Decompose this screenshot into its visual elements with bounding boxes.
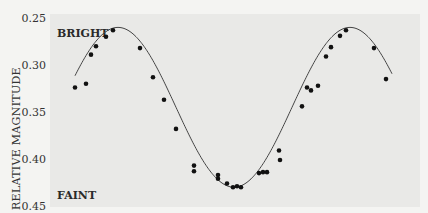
data-point [278, 158, 283, 163]
data-point [316, 83, 321, 88]
annotation-faint: FAINT [57, 189, 97, 202]
data-point [235, 184, 240, 189]
data-point [73, 85, 78, 90]
data-point [111, 28, 116, 33]
data-point [309, 88, 314, 93]
data-point [372, 46, 377, 51]
data-point [231, 185, 236, 190]
data-point [239, 185, 244, 190]
data-point [225, 181, 230, 186]
data-point [265, 170, 270, 175]
data-point [329, 45, 334, 50]
data-point [104, 35, 109, 40]
light-curve-chart: 0.250.300.350.400.45 RELATIVE MAGNITUDE … [0, 0, 428, 213]
data-point [300, 104, 305, 109]
y-axis-ticks: 0.250.300.350.400.45 [22, 12, 47, 213]
data-point [151, 75, 156, 80]
data-point [192, 163, 197, 168]
data-point [84, 82, 89, 87]
data-point [174, 127, 179, 132]
data-point [216, 176, 221, 181]
annotation-bright: BRIGHT [57, 27, 109, 40]
data-point [305, 85, 310, 90]
data-point [192, 169, 197, 174]
data-point [138, 46, 143, 51]
data-point [384, 77, 389, 82]
y-tick-label: 0.40 [22, 153, 47, 166]
data-point [257, 171, 262, 176]
data-point [261, 170, 266, 175]
data-point [344, 28, 349, 33]
data-point [277, 148, 282, 153]
y-tick-label: 0.45 [22, 200, 47, 213]
y-tick-label: 0.25 [22, 12, 47, 25]
data-point [338, 34, 343, 39]
y-axis-label: RELATIVE MAGNITUDE [10, 67, 23, 210]
data-point [162, 97, 167, 102]
data-point [324, 54, 329, 59]
y-tick-label: 0.30 [22, 59, 47, 72]
y-tick-label: 0.35 [22, 106, 47, 119]
data-point [89, 52, 94, 57]
data-point [94, 44, 99, 49]
plot-area [50, 14, 420, 207]
